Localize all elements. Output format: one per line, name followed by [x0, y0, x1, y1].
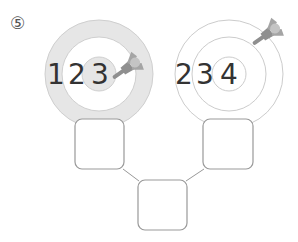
dart-icon	[247, 17, 286, 53]
left-digit-2: 2	[68, 58, 86, 91]
right-digit-2: 2	[175, 58, 193, 91]
answer-box-bottom[interactable]	[138, 180, 187, 230]
right-digit-4: 4	[220, 58, 238, 91]
left-digit-1: 1	[47, 58, 65, 91]
connector-right	[186, 169, 204, 181]
answer-box-right[interactable]	[203, 119, 253, 169]
connector-left	[123, 169, 139, 181]
left-digit-3: 3	[91, 58, 109, 91]
dart-target-diagram: ⑤ 1 2 3 2 3 4	[0, 0, 298, 242]
right-digit-3: 3	[196, 58, 214, 91]
left-target: 1 2 3	[45, 20, 153, 128]
answer-box-left[interactable]	[75, 119, 124, 169]
problem-number: ⑤	[10, 13, 25, 33]
